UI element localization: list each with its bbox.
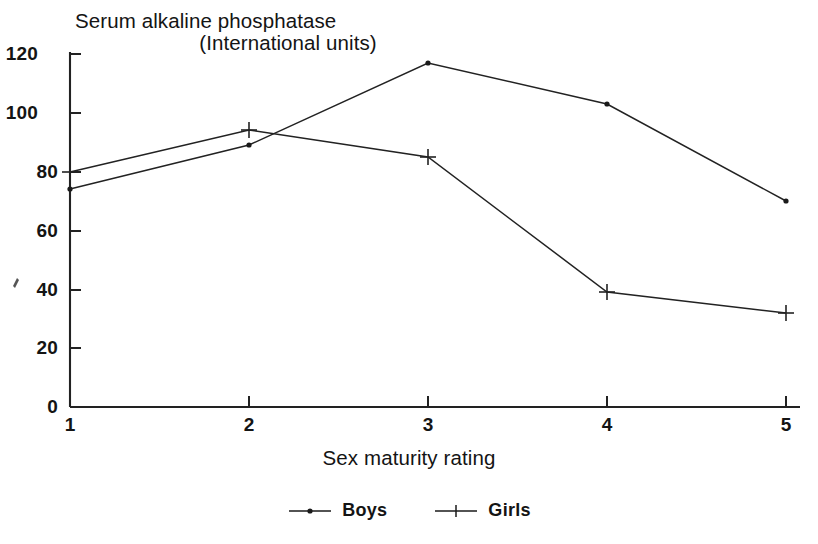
data-point-boys-4 xyxy=(604,101,609,106)
series-markers-girls xyxy=(62,122,794,321)
data-point-boys-2 xyxy=(246,142,251,147)
legend-item-girls: Girls xyxy=(433,500,531,521)
data-point-boys-3 xyxy=(425,60,430,65)
y-tick-label-80: 80 xyxy=(0,161,58,183)
x-tick-label-3: 3 xyxy=(408,414,448,436)
legend-label-boys: Boys xyxy=(342,500,387,521)
data-point-girls-5 xyxy=(778,305,794,321)
y-tick-label-100: 100 xyxy=(0,102,38,124)
y-axis-ticks xyxy=(70,54,81,407)
chart-figure: Serum alkaline phosphatase (Internationa… xyxy=(0,0,818,544)
data-point-girls-2 xyxy=(241,122,257,138)
plus-marker-icon xyxy=(433,504,479,518)
x-tick-label-4: 4 xyxy=(587,414,627,436)
x-tick-label-2: 2 xyxy=(229,414,269,436)
y-tick-label-120: 120 xyxy=(0,43,38,65)
x-tick-label-1: 1 xyxy=(50,414,90,436)
data-point-boys-5 xyxy=(783,198,788,203)
data-point-girls-1 xyxy=(62,164,78,180)
legend-item-boys: Boys xyxy=(287,500,387,521)
dot-marker-icon xyxy=(287,504,333,518)
data-point-boys-1 xyxy=(67,186,72,191)
x-axis-title: Sex maturity rating xyxy=(0,446,818,470)
y-tick-label-60: 60 xyxy=(0,220,58,242)
series-markers-boys xyxy=(67,60,788,203)
series-line-boys xyxy=(70,63,786,201)
data-point-girls-3 xyxy=(420,149,436,165)
y-tick-label-40: 40 xyxy=(0,279,58,301)
legend-label-girls: Girls xyxy=(488,500,531,521)
y-tick-label-20: 20 xyxy=(0,337,58,359)
x-tick-label-5: 5 xyxy=(766,414,806,436)
chart-legend: Boys Girls xyxy=(0,500,818,521)
y-axis-label-clipped xyxy=(12,276,21,290)
x-axis-ticks xyxy=(70,396,786,407)
data-point-girls-4 xyxy=(599,284,615,300)
